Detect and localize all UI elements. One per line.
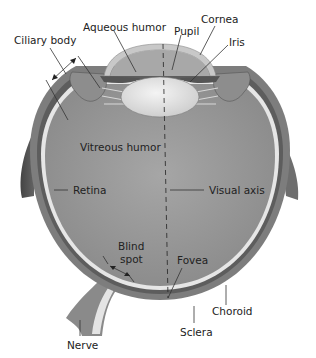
label-fovea: Fovea: [177, 254, 208, 266]
label-sclera: Sclera: [180, 326, 213, 338]
label-ciliary-body: Ciliary body: [14, 34, 76, 46]
label-nerve: Nerve: [67, 339, 98, 351]
label-iris: Iris: [229, 36, 245, 48]
label-aqueous-humor: Aqueous humor: [83, 21, 167, 33]
label-choroid: Choroid: [212, 305, 253, 317]
label-blind-spot-2: spot: [120, 253, 143, 265]
label-pupil: Pupil: [174, 25, 199, 37]
eye-diagram: Ciliary body Aqueous humor Pupil Cornea …: [0, 0, 316, 358]
label-vitreous-humor: Vitreous humor: [80, 141, 161, 153]
label-visual-axis: Visual axis: [209, 184, 265, 196]
label-blind-spot-1: Blind: [118, 240, 144, 252]
lens: [121, 77, 199, 117]
label-cornea: Cornea: [201, 13, 238, 25]
label-retina: Retina: [73, 184, 106, 196]
